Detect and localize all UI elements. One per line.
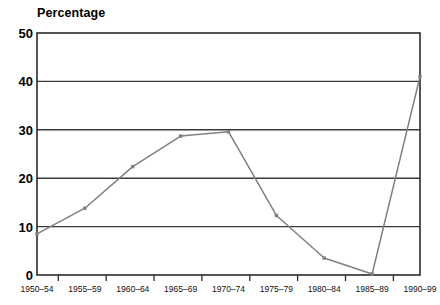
data-point-marker bbox=[227, 130, 230, 133]
data-point-marker bbox=[370, 272, 373, 275]
x-tick-label-3: 1965–69 bbox=[164, 285, 197, 294]
data-point-marker bbox=[179, 134, 182, 137]
data-point-marker bbox=[323, 256, 326, 259]
plot-frame bbox=[37, 33, 420, 275]
x-tick-label-8: 1990–99 bbox=[403, 285, 436, 294]
x-tick-label-5: 1975–79 bbox=[260, 285, 293, 294]
x-axis-ticks bbox=[58, 275, 393, 281]
data-point-marker bbox=[418, 75, 421, 78]
x-tick-label-0: 1950–54 bbox=[20, 285, 53, 294]
x-tick-label-6: 1980–84 bbox=[308, 285, 341, 294]
grid-lines bbox=[37, 81, 420, 226]
x-tick-label-7: 1985–89 bbox=[356, 285, 389, 294]
x-tick-label-1: 1955–59 bbox=[68, 285, 101, 294]
data-point-marker bbox=[131, 165, 134, 168]
line-chart: Percentage 50 40 30 20 10 0 bbox=[0, 0, 440, 305]
x-tick-label-4: 1970–74 bbox=[212, 285, 245, 294]
plot-svg bbox=[0, 0, 440, 305]
x-tick-label-2: 1960–64 bbox=[116, 285, 149, 294]
data-point-marker bbox=[83, 207, 86, 210]
data-point-marker bbox=[35, 232, 38, 235]
data-point-marker bbox=[275, 214, 278, 217]
data-series bbox=[35, 75, 421, 276]
